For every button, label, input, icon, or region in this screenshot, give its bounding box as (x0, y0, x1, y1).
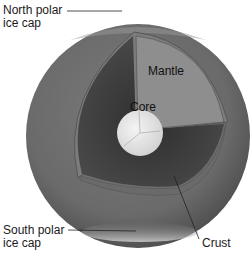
label-north-polar-ice-cap: North polar ice cap (3, 4, 62, 30)
south-polar-ice-cap (82, 222, 198, 242)
planet-cutaway-diagram (0, 0, 250, 254)
label-mantle: Mantle (148, 64, 184, 78)
label-south-polar-ice-cap: South polar ice cap (3, 224, 64, 250)
label-core: Core (130, 100, 156, 114)
label-crust: Crust (202, 237, 231, 250)
